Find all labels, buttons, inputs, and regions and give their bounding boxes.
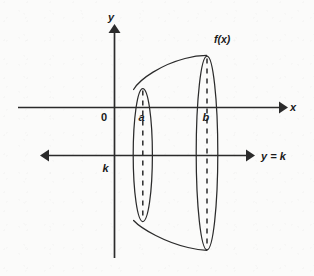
x-axis-label: x [289,101,297,113]
upper-boundary-curve [134,55,207,89]
figure-canvas: x y y = k a b [0,0,314,276]
x-axis-arrowhead-icon [279,102,288,114]
bleed-text-2 [150,23,152,37]
function-curve-label: f(x) [214,33,231,45]
y-axis-group: y [107,11,121,258]
bleed-text-1 [206,5,208,19]
origin-label: 0 [101,111,107,123]
x-axis-group: x [18,101,297,114]
page-bleedthrough [150,5,208,37]
y-axis-arrowhead-icon [109,24,121,33]
revolution-axis-left-arrowhead-icon [40,150,49,162]
lower-bound-label: a [139,111,145,123]
revolution-axis-right-arrowhead-icon [246,150,255,162]
lower-boundary-curve [134,221,207,251]
upper-bound-label: b [203,111,210,123]
revolution-axis-label: y = k [260,150,287,162]
y-axis-label: y [107,11,115,23]
diagram-svg: x y y = k a b [0,0,314,276]
k-intercept-label: k [103,162,110,174]
cross-section-disk-b: b [196,56,218,250]
revolution-axis-group: y = k [40,150,287,162]
